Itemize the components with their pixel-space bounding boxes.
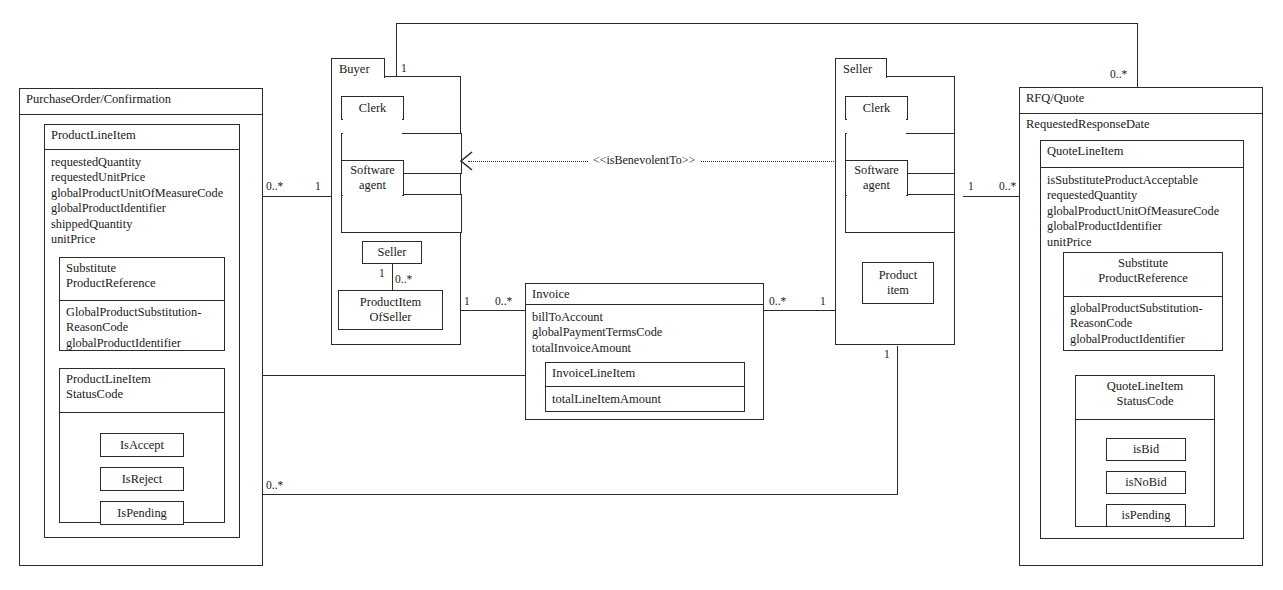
multiplicity-rfq-top: 0..* — [1110, 68, 1127, 80]
multiplicity-productitem-to-invoice: 1 — [464, 295, 470, 307]
multiplicity-buyer-productitem-sub: 0..* — [395, 273, 412, 285]
multiplicity-invoice-to-seller: 1 — [820, 295, 826, 307]
buyer-sa-mask — [343, 194, 402, 197]
class-buyer-software-agent-title[interactable]: Software agent — [341, 160, 404, 196]
buyer-clerk-mask — [343, 118, 402, 134]
package-buyer-tab: Buyer — [331, 58, 385, 78]
open-arrowhead-icon — [458, 150, 474, 172]
package-seller-tab: Seller — [835, 58, 887, 78]
class-quote-substitute-product-reference-attributes: globalProductSubstitution- ReasonCode gl… — [1063, 297, 1223, 347]
connector-buyer-seller-to-productitem — [392, 264, 393, 290]
class-buyer-clerk-title[interactable]: Clerk — [341, 96, 404, 120]
class-buyer-software-agent[interactable] — [341, 194, 462, 233]
class-quote-substitute-product-reference-title: Substitute ProductReference — [1063, 252, 1223, 297]
multiplicity-po-to-buyer-left: 0..* — [266, 180, 283, 192]
seller-clerk-mask — [847, 118, 906, 134]
multiplicity-buyer-seller-sub: 1 — [379, 267, 385, 279]
connector-seller-bottom-vertical — [897, 346, 898, 495]
seller-sa-mask — [847, 194, 906, 197]
state-is-pending-quote[interactable]: isPending — [1106, 504, 1186, 527]
class-invoice-attributes: billToAccount globalPaymentTermsCode tot… — [525, 306, 764, 356]
multiplicity-seller-to-rfq-left: 1 — [968, 180, 974, 192]
connector-po-to-invoiceline — [249, 375, 546, 376]
class-product-line-item-attributes: requestedQuantity requestedUnitPrice glo… — [44, 151, 240, 247]
package-purchase-order-title: PurchaseOrder/Confirmation — [19, 88, 263, 115]
class-invoice-line-item-attributes: totalLineItemAmount — [545, 392, 745, 407]
multiplicity-po-to-buyer-right: 1 — [315, 180, 321, 192]
multiplicity-buyer-top: 1 — [401, 62, 407, 74]
class-substitute-product-reference-attributes: GlobalProductSubstitution- ReasonCode gl… — [59, 301, 225, 351]
class-quote-line-item-attributes: isSubstituteProductAcceptable requestedQ… — [1040, 169, 1244, 250]
stereotype-label: <<isBenevolentTo>> — [588, 154, 700, 167]
connector-po-bottom-horizontal — [263, 494, 898, 495]
multiplicity-seller-to-rfq-right: 0..* — [999, 180, 1016, 192]
class-seller-software-agent-title[interactable]: Software agent — [845, 160, 908, 196]
multiplicity-seller-bottom: 1 — [884, 348, 890, 360]
state-is-no-bid[interactable]: isNoBid — [1106, 471, 1186, 494]
class-product-line-item-status-code-title: ProductLineItem StatusCode — [59, 368, 225, 413]
class-quote-line-item-status-code-title: QuoteLineItem StatusCode — [1075, 375, 1215, 420]
state-is-bid[interactable]: isBid — [1106, 438, 1186, 461]
class-substitute-product-reference-title: Substitute ProductReference — [59, 257, 225, 301]
connector-po-to-buyer — [263, 196, 331, 197]
connector-rfq-top-vertical — [1137, 23, 1138, 87]
class-invoice-title: Invoice — [525, 283, 764, 305]
class-seller-clerk-title[interactable]: Clerk — [845, 96, 908, 120]
multiplicity-invoice-right: 0..* — [769, 295, 786, 307]
state-is-reject[interactable]: IsReject — [100, 467, 184, 491]
class-invoice-line-item-title: InvoiceLineItem — [545, 362, 745, 387]
package-rfq-quote-title: RFQ/Quote — [1019, 87, 1263, 114]
state-is-pending[interactable]: IsPending — [100, 501, 184, 525]
uml-class-diagram: 1 0..* 0..* 1 1 0..* <<isBenevolentTo>> … — [0, 0, 1283, 590]
state-is-accept[interactable]: IsAccept — [100, 433, 184, 457]
connector-invoice-to-seller — [763, 310, 835, 311]
class-seller-product-item[interactable]: Product item — [862, 262, 934, 304]
class-seller-software-agent[interactable] — [845, 194, 955, 233]
multiplicity-po-bottom: 0..* — [266, 479, 283, 491]
class-product-item-of-seller[interactable]: ProductItem OfSeller — [338, 290, 443, 330]
rfq-requested-response-date: RequestedResponseDate — [1019, 117, 1263, 132]
class-buyer-seller[interactable]: Seller — [362, 241, 422, 264]
connector-seller-to-rfq — [963, 196, 1023, 197]
connector-top-horizontal — [396, 23, 1138, 24]
class-product-line-item-title: ProductLineItem — [44, 124, 240, 150]
multiplicity-invoice-left: 0..* — [495, 295, 512, 307]
class-quote-line-item-title: QuoteLineItem — [1040, 140, 1244, 168]
